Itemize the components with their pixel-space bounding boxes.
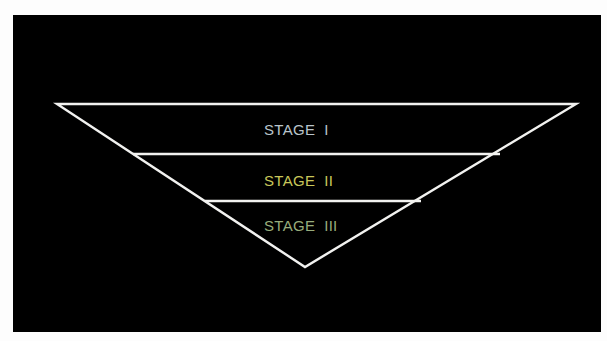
- funnel-diagram: STAGE I STAGE II STAGE III: [0, 0, 607, 341]
- stage-3-label: STAGE III: [264, 217, 338, 234]
- stage-1-label: STAGE I: [264, 121, 329, 138]
- stage-2-label: STAGE II: [264, 172, 333, 189]
